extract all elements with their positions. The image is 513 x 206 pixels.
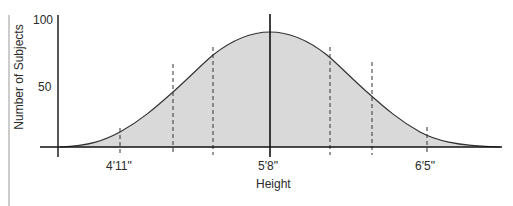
distribution-area bbox=[60, 32, 500, 147]
y-tick-100: 100 bbox=[33, 13, 53, 27]
bell-curve-chart bbox=[0, 0, 513, 206]
y-axis-label: Number of Subjects bbox=[12, 22, 26, 132]
x-tick-6-5: 6'5" bbox=[415, 159, 435, 173]
x-tick-5-8: 5'8" bbox=[258, 159, 278, 173]
x-tick-4-11: 4'11" bbox=[106, 159, 132, 173]
y-tick-50: 50 bbox=[38, 80, 51, 94]
x-axis-label: Height bbox=[256, 177, 291, 191]
